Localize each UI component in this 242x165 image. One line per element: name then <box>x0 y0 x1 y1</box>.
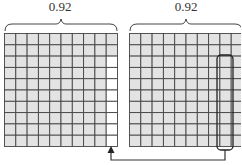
grid-cell <box>50 79 61 90</box>
grid-cell <box>5 124 16 135</box>
grid-cell <box>72 113 83 124</box>
grid-cell <box>209 67 220 78</box>
grid-cell <box>130 67 141 78</box>
grid-cell <box>84 67 95 78</box>
grid-cell <box>175 113 186 124</box>
grid-cell <box>27 124 38 135</box>
grid-cell <box>163 67 174 78</box>
grid-cell <box>95 45 106 56</box>
grid-cell <box>38 56 49 67</box>
grid-cell <box>175 90 186 101</box>
grid-cell <box>130 124 141 135</box>
left-brace <box>5 19 117 31</box>
grid-cell <box>27 135 38 146</box>
grid-cell <box>16 90 27 101</box>
grid-cell <box>27 67 38 78</box>
grid-cell <box>163 101 174 112</box>
grid-cell <box>220 79 231 90</box>
grid-cell <box>106 34 117 45</box>
move-arrow <box>111 150 225 160</box>
grid-cell <box>197 67 208 78</box>
grid-cell <box>72 34 83 45</box>
grid-cell <box>38 113 49 124</box>
grid-cell <box>141 90 152 101</box>
grid-cell <box>106 56 117 67</box>
grid-cell <box>72 56 83 67</box>
grid-cell <box>197 34 208 45</box>
grid-cell <box>209 124 220 135</box>
grid-cell <box>27 45 38 56</box>
grid-cell <box>141 113 152 124</box>
grid-cell <box>84 113 95 124</box>
grid-cell <box>163 56 174 67</box>
grid-cell <box>95 56 106 67</box>
grid-cell <box>209 135 220 146</box>
grid-cell <box>141 34 152 45</box>
grid-cell <box>95 67 106 78</box>
grid-cell <box>61 56 72 67</box>
grid-cell <box>197 135 208 146</box>
grid-cell <box>152 124 163 135</box>
grid-cell <box>152 34 163 45</box>
grid-cell <box>152 135 163 146</box>
grid-cell <box>130 101 141 112</box>
grid-cell <box>141 135 152 146</box>
grid-cell <box>84 45 95 56</box>
grid-cell <box>130 90 141 101</box>
grid-cell <box>163 90 174 101</box>
grid-cell <box>186 79 197 90</box>
grid-cell <box>16 56 27 67</box>
grid-cell <box>152 90 163 101</box>
grid-cell <box>186 90 197 101</box>
grid-cell <box>186 56 197 67</box>
grid-cell <box>152 79 163 90</box>
decimal-grid-diagram <box>0 0 241 165</box>
grid-cell <box>27 34 38 45</box>
grid-cell <box>95 135 106 146</box>
grid-cell <box>141 45 152 56</box>
grid-cell <box>186 113 197 124</box>
grid-cell <box>84 34 95 45</box>
grid-cell <box>220 124 231 135</box>
grid-cell <box>61 45 72 56</box>
grid-cell <box>141 67 152 78</box>
grid-cell <box>72 124 83 135</box>
grid-cell <box>141 56 152 67</box>
grid-cell <box>27 79 38 90</box>
grid-cell <box>106 45 117 56</box>
grid-cell <box>84 56 95 67</box>
grid-cell <box>16 124 27 135</box>
grid-cell <box>61 67 72 78</box>
grid-cell <box>16 45 27 56</box>
grid-cell <box>16 135 27 146</box>
grid-cell <box>175 34 186 45</box>
grid-cell <box>50 34 61 45</box>
grid-cell <box>38 45 49 56</box>
grid-cell <box>197 124 208 135</box>
left-grid <box>5 34 118 147</box>
grid-cell <box>130 45 141 56</box>
grid-cell <box>95 79 106 90</box>
grid-cell <box>152 101 163 112</box>
grid-cell <box>84 90 95 101</box>
grid-cell <box>130 79 141 90</box>
grid-cell <box>197 45 208 56</box>
grid-cell <box>209 113 220 124</box>
grid-cell <box>141 124 152 135</box>
grid-cell <box>186 67 197 78</box>
grid-cell <box>220 34 231 45</box>
grid-cell <box>5 45 16 56</box>
grid-cell <box>84 135 95 146</box>
grid-cell <box>50 113 61 124</box>
grid-cell <box>72 45 83 56</box>
arrowhead-icon <box>108 146 115 153</box>
grid-cell <box>175 67 186 78</box>
grid-cell <box>38 79 49 90</box>
grid-cell <box>5 135 16 146</box>
right-grid <box>130 34 242 147</box>
right-brace <box>130 19 241 31</box>
grid-cell <box>163 124 174 135</box>
grid-cell <box>197 56 208 67</box>
grid-cell <box>186 45 197 56</box>
grid-cell <box>163 45 174 56</box>
